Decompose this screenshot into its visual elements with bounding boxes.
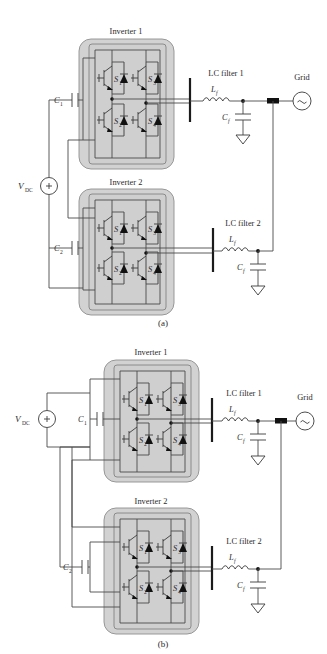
circuit-diagram-a: Inverter 1 S (0, 0, 327, 330)
grid-label: Grid (294, 73, 310, 82)
switch-s1-sublabel: 1 (144, 401, 147, 407)
switch-s4-sublabel: 4 (153, 122, 156, 128)
vdc-label: V (15, 414, 22, 424)
inductor-lf-sublabel: f (216, 90, 219, 96)
inductor-lf-sublabel: f (234, 410, 237, 416)
switch-s3-sublabel: 3 (178, 401, 181, 407)
switch-s4-sublabel: 4 (178, 589, 181, 595)
switch-s2-sublabel: 2 (119, 270, 122, 276)
switch-s4-sublabel: 4 (153, 270, 156, 276)
subfigure-b-caption: (b) (158, 639, 169, 649)
ground-symbol-filter-2 (251, 604, 265, 613)
lc-filter-1-title: LC filter 1 (226, 389, 261, 398)
switch-s1-sublabel: 1 (144, 549, 147, 555)
capacitor-c2-sublabel: 2 (60, 249, 63, 255)
lc-filter-2-b: LC filter 2 L f C f (212, 537, 266, 613)
subfigure-a-caption: (a) (158, 318, 168, 328)
inverter-1-inner-box (114, 365, 191, 477)
capacitor-cf-sublabel: f (243, 438, 246, 444)
switch-s2-sublabel: 2 (144, 441, 147, 447)
ground-symbol-filter-1 (251, 456, 265, 465)
dc-source-a: V DC (18, 100, 58, 288)
switch-s3-sublabel: 3 (153, 80, 156, 86)
vdc-sublabel: DC (25, 187, 33, 193)
vdc-sublabel: DC (22, 420, 30, 426)
lc-filter-1-b: LC filter 1 L f C f (212, 389, 266, 465)
inverter-1-title: Inverter 1 (110, 27, 143, 36)
lc-filter-2-title: LC filter 2 (226, 537, 261, 546)
switch-s1-sublabel: 1 (119, 230, 122, 236)
switch-s2-sublabel: 2 (144, 589, 147, 595)
grid-connection-b: Grid (258, 393, 314, 569)
capacitor-cf-sublabel: f (243, 268, 246, 274)
inductor-lf-filter-2 (222, 566, 248, 569)
switch-s3-sublabel: 3 (153, 230, 156, 236)
vdc-label: V (18, 181, 25, 191)
capacitor-cf-sublabel: f (243, 586, 246, 592)
capacitor-cf-sublabel: f (228, 118, 231, 124)
inverter-2-title: Inverter 2 (135, 497, 168, 506)
grid-source-circle (296, 412, 314, 430)
switch-s1-sublabel: 1 (119, 80, 122, 86)
lc-filter-1-a: LC filter 1 L f C f (190, 69, 251, 144)
switch-s4-sublabel: 4 (178, 441, 181, 447)
inductor-lf-filter-1 (222, 418, 248, 421)
switch-s2-sublabel: 2 (119, 122, 122, 128)
lc-filter-2-a: LC filter 2 L f C f (213, 219, 266, 295)
capacitor-c1-sublabel: 1 (60, 101, 63, 107)
circuit-diagram-b: Inverter 1 S 1 (0, 330, 327, 654)
lc-filter-1-title: LC filter 1 (208, 69, 243, 78)
subfigure-b: Inverter 1 S 1 (0, 330, 327, 654)
grid-source-circle (293, 92, 311, 110)
grid-label: Grid (297, 393, 313, 402)
inductor-lf-sublabel: f (234, 558, 237, 564)
inductor-lf-filter-1 (203, 98, 229, 101)
inductor-lf-sublabel: f (234, 240, 237, 246)
subfigure-a: Inverter 1 S (0, 0, 327, 330)
ground-symbol-filter-2 (251, 286, 265, 295)
inductor-lf-filter-2 (222, 248, 248, 251)
inverter-2-title: Inverter 2 (110, 178, 143, 187)
lc-filter-2-title: LC filter 2 (225, 219, 260, 228)
capacitor-c1-sublabel: 1 (84, 420, 87, 426)
ground-symbol-filter-1 (236, 135, 250, 144)
inverter-1-title: Inverter 1 (135, 348, 168, 357)
switch-s3-sublabel: 3 (178, 549, 181, 555)
